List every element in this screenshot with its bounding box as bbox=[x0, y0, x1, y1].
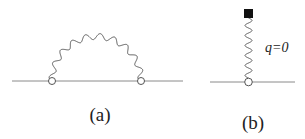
vertex-b bbox=[245, 78, 253, 86]
diagram-a: (a) bbox=[12, 34, 183, 126]
feynman-diagrams: (a) q=0 (b) bbox=[0, 0, 305, 139]
diagram-b: q=0 (b) bbox=[210, 9, 295, 134]
source-square-icon bbox=[244, 9, 253, 18]
wavy-propagator-vertical bbox=[245, 18, 252, 78]
vertex-right bbox=[138, 78, 145, 85]
momentum-label: q=0 bbox=[265, 40, 288, 55]
wavy-propagator-arc bbox=[49, 34, 143, 81]
caption-b: (b) bbox=[242, 112, 264, 134]
vertex-left bbox=[49, 78, 56, 85]
caption-a: (a) bbox=[89, 104, 110, 126]
